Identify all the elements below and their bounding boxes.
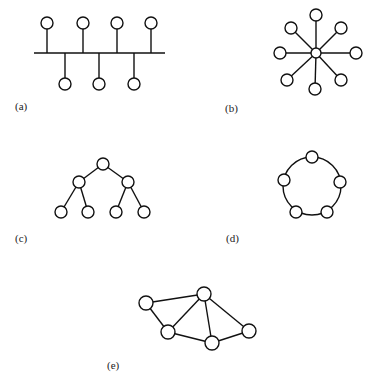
- ring-node-circle: [334, 176, 346, 188]
- star-node-circle: [281, 74, 293, 86]
- panel-label-c: (c): [15, 233, 27, 244]
- star-node-circle: [309, 83, 321, 95]
- tree-node-circle: [82, 206, 94, 218]
- star-node-circle: [335, 74, 347, 86]
- bus-node-circle: [59, 78, 71, 90]
- mesh-edge-line: [168, 294, 204, 332]
- ring-node-circle: [278, 174, 290, 186]
- star-node-circle: [274, 47, 286, 59]
- ring-path: [283, 157, 341, 215]
- mesh-node-circle: [197, 287, 211, 301]
- panel-label-e: (e): [107, 360, 119, 371]
- bus-node-circle: [111, 17, 123, 29]
- bus-node-circle: [41, 17, 53, 29]
- tree-node-circle: [110, 206, 122, 218]
- ring-node-circle: [321, 206, 333, 218]
- tree-node-circle: [138, 206, 150, 218]
- star-node-circle: [285, 22, 297, 34]
- mesh-node-circle: [242, 324, 256, 338]
- mesh-edge-line: [204, 294, 249, 331]
- tree-node-circle: [97, 158, 109, 170]
- star-node-circle: [350, 47, 362, 59]
- panel-label-a: (a): [15, 101, 27, 112]
- mesh-edge-line: [146, 294, 204, 303]
- bus-node-circle: [145, 17, 157, 29]
- star-node-circle: [335, 22, 347, 34]
- nodes-layer: [41, 9, 362, 350]
- bus-node-circle: [93, 78, 105, 90]
- bus-node-circle: [77, 17, 89, 29]
- tree-node-circle: [122, 176, 134, 188]
- mesh-node-circle: [205, 336, 219, 350]
- rings-layer: [283, 157, 341, 215]
- mesh-node-circle: [161, 325, 175, 339]
- star-hub-circle: [311, 48, 321, 58]
- network-topologies-figure: [0, 0, 370, 378]
- panel-label-d: (d): [226, 233, 239, 244]
- tree-node-circle: [73, 176, 85, 188]
- mesh-node-circle: [139, 296, 153, 310]
- ring-node-circle: [306, 151, 318, 163]
- tree-node-circle: [55, 206, 67, 218]
- panel-label-b: (b): [225, 103, 238, 114]
- star-node-circle: [310, 9, 322, 21]
- bus-node-circle: [128, 78, 140, 90]
- ring-node-circle: [290, 206, 302, 218]
